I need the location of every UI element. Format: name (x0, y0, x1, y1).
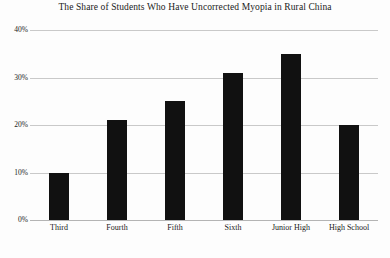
x-axis-tick-label: Third (50, 224, 68, 233)
y-axis: 0%10%20%30%40% (0, 30, 28, 220)
y-axis-tick-label: 0% (2, 216, 28, 224)
bar (165, 101, 185, 220)
bar (281, 54, 301, 220)
bar (49, 173, 69, 221)
bar-chart: The Share of Students Who Have Uncorrect… (0, 0, 390, 258)
x-axis-tick-label: Junior High (272, 224, 310, 233)
x-axis-tick-label: High School (329, 224, 369, 233)
x-axis-tick-label: Fifth (167, 224, 183, 233)
bars-layer (30, 30, 378, 220)
x-axis-tick-label: Sixth (225, 224, 242, 233)
y-axis-tick-label: 10% (2, 169, 28, 177)
bar (339, 125, 359, 220)
x-axis: ThirdFourthFifthSixthJunior HighHigh Sch… (30, 224, 378, 244)
y-axis-tick-label: 20% (2, 121, 28, 129)
x-axis-tick-label: Fourth (106, 224, 127, 233)
chart-title: The Share of Students Who Have Uncorrect… (0, 2, 390, 12)
bar (107, 120, 127, 220)
bar (223, 73, 243, 220)
y-axis-tick-label: 30% (2, 74, 28, 82)
gridline (30, 220, 378, 221)
y-axis-tick-label: 40% (2, 26, 28, 34)
